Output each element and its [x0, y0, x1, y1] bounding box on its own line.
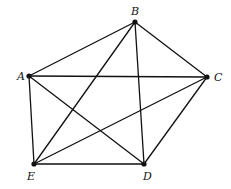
edge-a-b	[29, 22, 135, 76]
vertex-a	[26, 73, 31, 78]
vertex-label-b: B	[130, 5, 139, 18]
k5-graph-diagram: A B C D E	[0, 0, 231, 189]
edge-b-d	[135, 22, 144, 164]
vertex-label-e: E	[26, 170, 35, 183]
vertex-c	[204, 74, 209, 79]
vertex-d	[141, 161, 146, 166]
edge-b-e	[34, 22, 135, 164]
edge-c-e	[34, 77, 207, 164]
vertex-label-d: D	[142, 170, 152, 183]
vertex-b	[132, 19, 137, 24]
edge-b-c	[135, 22, 207, 77]
edge-c-d	[144, 77, 207, 164]
edges-group	[29, 22, 207, 164]
vertex-label-a: A	[16, 70, 25, 83]
vertex-e	[31, 161, 36, 166]
labels-group: A B C D E	[16, 5, 223, 183]
edge-a-c	[29, 76, 207, 77]
vertex-label-c: C	[214, 71, 223, 84]
edge-a-e	[29, 76, 34, 164]
